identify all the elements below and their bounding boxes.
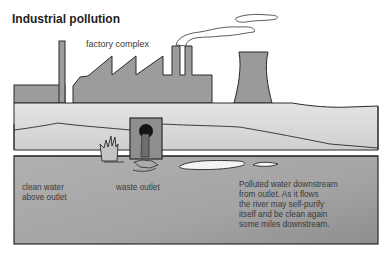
factory-complex	[14, 41, 212, 103]
label-factory-complex: factory complex	[86, 39, 149, 49]
cooling-tower	[234, 52, 272, 103]
label-polluted-water: Polluted water downstream from outlet. A…	[239, 180, 338, 230]
label-waste-outlet: waste outlet	[116, 183, 160, 193]
label-clean-water: clean water above outlet	[22, 183, 67, 203]
smoke-plume	[176, 14, 278, 46]
